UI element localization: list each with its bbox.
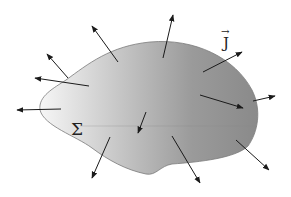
current-vector-arrow (253, 96, 275, 101)
sigma-label: Σ (71, 119, 83, 139)
surface-current-diagram: Σ J → (0, 0, 291, 197)
surface-sigma (40, 41, 258, 174)
vector-arrow-accent: → (221, 26, 230, 37)
current-vector-arrow (236, 140, 269, 170)
current-vector-arrow (47, 54, 68, 78)
